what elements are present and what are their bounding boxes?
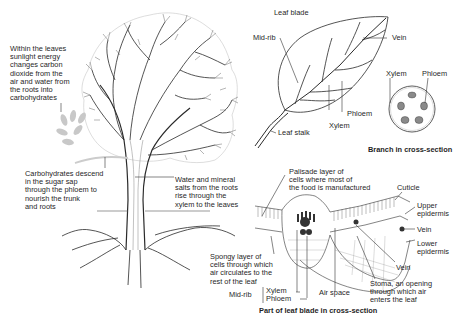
lower-epidermis-label: Lower epidermis <box>417 240 449 256</box>
branch-cross-section-illustration <box>389 78 435 132</box>
xylem-ascent-note: Water and mineral salts from the roots r… <box>175 176 238 209</box>
cuticle-label: Cuticle <box>397 184 420 192</box>
branch-cross-section-caption: Branch in cross-section <box>368 146 452 154</box>
leaf-stalk-label: Leaf stalk <box>278 129 310 137</box>
leaves-photosynthesis-note: Within the leaves sunlight energy change… <box>10 45 70 102</box>
palisade-layer-label: Palisade layer of cells where most of th… <box>289 168 370 193</box>
vein-label: Vein <box>392 34 406 42</box>
tree-illustration <box>62 13 238 288</box>
air-space-label: Air space <box>319 289 350 297</box>
mid-rib-label: Mid-rib <box>253 34 276 42</box>
vein-bottom-label: Vein <box>396 264 410 272</box>
leaf-blade-label: Leaf blade <box>274 9 309 17</box>
cross-section-phloem-label: Phloem <box>266 295 291 303</box>
spongy-layer-label: Spongy layer of cells through which air … <box>210 253 273 286</box>
branch-xylem-label: Xylem <box>386 70 407 78</box>
phloem-descent-note: Carbohydrates descend in the sugar sap t… <box>25 170 103 211</box>
vein-right-label: Vein <box>417 226 431 234</box>
cross-section-mid-rib-label: Mid-rib <box>229 291 252 299</box>
leaf-xylem-label: Xylem <box>329 122 350 130</box>
leaf-phloem-label: Phloem <box>347 110 372 118</box>
leaf-cross-section-caption: Part of leaf blade in cross-section <box>259 307 377 315</box>
upper-epidermis-label: Upper epidermis <box>417 202 449 218</box>
branch-phloem-label: Phloem <box>422 70 447 78</box>
stoma-label: Stoma, an opening through which air ente… <box>370 280 432 305</box>
